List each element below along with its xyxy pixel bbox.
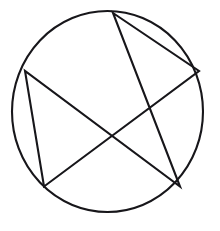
pentagram-figure — [0, 0, 220, 231]
figure-canvas: Pentagram inscribed in a circle A five-p… — [0, 0, 220, 231]
